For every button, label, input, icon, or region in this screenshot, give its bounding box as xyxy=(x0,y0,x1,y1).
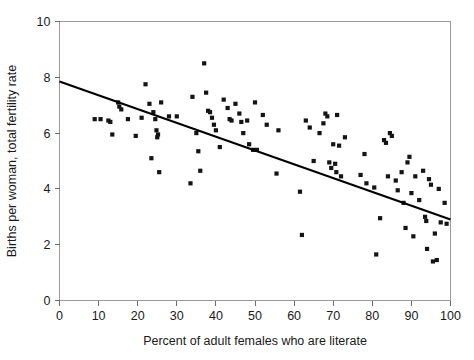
data-point-marker xyxy=(159,100,163,104)
x-tick-label: 80 xyxy=(365,309,379,323)
data-point-marker xyxy=(134,134,138,138)
data-point-marker xyxy=(140,116,144,120)
data-point-marker xyxy=(261,113,265,117)
x-tick-label: 30 xyxy=(170,309,184,323)
data-point-marker xyxy=(386,174,390,178)
data-point-marker xyxy=(425,247,429,251)
plot-canvas: 02468100102030405060708090100Percent of … xyxy=(0,0,474,360)
y-tick-label: 0 xyxy=(44,294,51,308)
data-point-marker xyxy=(229,118,233,122)
x-axis-ticks: 0102030405060708090100 xyxy=(56,301,461,323)
scatter-plot-figure: 02468100102030405060708090100Percent of … xyxy=(0,0,474,360)
data-point-marker xyxy=(167,114,171,118)
data-point-marker xyxy=(421,169,425,173)
data-point-marker xyxy=(126,117,130,121)
x-tick-label: 10 xyxy=(92,309,106,323)
data-point-marker xyxy=(93,117,97,121)
x-tick-label: 20 xyxy=(131,309,145,323)
data-point-marker xyxy=(403,226,407,230)
data-point-marker xyxy=(208,110,212,114)
data-point-marker xyxy=(110,132,114,136)
data-point-marker xyxy=(226,106,230,110)
data-point-marker xyxy=(427,177,431,181)
data-point-marker xyxy=(156,132,160,136)
data-point-marker xyxy=(429,183,433,187)
data-point-marker xyxy=(358,173,362,177)
data-point-marker xyxy=(333,162,337,166)
data-point-marker xyxy=(119,107,123,111)
data-point-marker xyxy=(214,128,218,132)
data-point-marker xyxy=(372,185,376,189)
data-point-marker xyxy=(364,181,368,185)
data-point-marker xyxy=(304,118,308,122)
x-tick-label: 0 xyxy=(56,309,63,323)
data-point-marker xyxy=(210,116,214,120)
data-point-marker xyxy=(317,131,321,135)
data-point-marker xyxy=(424,219,428,223)
data-point-marker xyxy=(409,191,413,195)
data-point-marker xyxy=(396,188,400,192)
y-tick-label: 4 xyxy=(44,182,51,196)
data-point-marker xyxy=(407,155,411,159)
data-point-marker xyxy=(439,220,443,224)
data-point-marker xyxy=(400,170,404,174)
data-point-marker xyxy=(194,131,198,135)
data-point-marker xyxy=(175,114,179,118)
data-point-marker xyxy=(300,233,304,237)
data-point-marker xyxy=(188,181,192,185)
data-point-marker xyxy=(335,113,339,117)
data-point-marker xyxy=(423,215,427,219)
data-point-marker xyxy=(329,166,333,170)
data-point-marker xyxy=(334,170,338,174)
y-tick-label: 10 xyxy=(37,15,51,29)
data-point-marker xyxy=(298,190,302,194)
y-tick-label: 6 xyxy=(44,127,51,141)
data-point-marker xyxy=(443,201,447,205)
data-point-marker xyxy=(222,98,226,102)
axis-spines-main xyxy=(60,22,451,301)
data-point-marker xyxy=(253,100,257,104)
data-point-marker xyxy=(435,258,439,262)
axis-spines-secondary xyxy=(60,22,451,301)
data-point-marker xyxy=(433,231,437,235)
data-point-marker xyxy=(143,82,147,86)
data-point-marker xyxy=(157,170,161,174)
data-point-marker xyxy=(233,102,237,106)
x-tick-label: 50 xyxy=(248,309,262,323)
data-point-marker xyxy=(239,120,243,124)
data-point-marker xyxy=(362,152,366,156)
y-tick-label: 8 xyxy=(44,71,51,85)
data-point-marker xyxy=(405,160,409,164)
data-point-marker xyxy=(417,198,421,202)
data-point-marker xyxy=(149,156,153,160)
x-axis-title: Percent of adult females who are literat… xyxy=(143,334,367,348)
data-point-marker xyxy=(431,259,435,263)
data-point-marker xyxy=(276,128,280,132)
data-point-marker xyxy=(339,174,343,178)
data-point-marker xyxy=(325,114,329,118)
data-point-marker xyxy=(337,144,341,148)
data-point-marker xyxy=(241,131,245,135)
axis-frame xyxy=(60,22,451,301)
data-point-marker xyxy=(384,141,388,145)
x-tick-label: 70 xyxy=(326,309,340,323)
data-point-marker xyxy=(108,120,112,124)
data-point-marker xyxy=(374,252,378,256)
data-point-marker xyxy=(274,171,278,175)
data-point-marker xyxy=(327,160,331,164)
data-point-marker xyxy=(394,178,398,182)
data-point-marker xyxy=(154,128,158,132)
data-point-marker xyxy=(212,123,216,127)
data-point-marker xyxy=(245,118,249,122)
x-tick-label: 90 xyxy=(404,309,418,323)
data-point-marker xyxy=(247,142,251,146)
data-point-marker xyxy=(153,117,157,121)
data-point-marker xyxy=(331,142,335,146)
data-point-marker xyxy=(237,111,241,115)
x-tick-label: 60 xyxy=(287,309,301,323)
data-point-marker xyxy=(98,117,102,121)
data-point-marker xyxy=(190,95,194,99)
data-point-marker xyxy=(437,187,441,191)
data-point-marker xyxy=(202,61,206,65)
data-point-marker xyxy=(343,135,347,139)
